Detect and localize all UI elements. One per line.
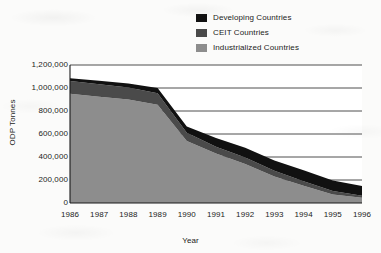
x-tick-label: 1987 (84, 210, 114, 219)
x-axis-tick-labels: 1986198719881989199019911992199319941995… (0, 210, 381, 224)
y-tick-label: 1,000,000 (4, 83, 68, 92)
plot-area: 0200,000400,000600,000800,0001,000,0001,… (0, 0, 381, 253)
x-tick-label: 1994 (289, 210, 319, 219)
y-axis-title: ODP Tonnes (8, 93, 17, 153)
x-tick-label: 1988 (113, 210, 143, 219)
x-axis-title: Year (0, 236, 381, 245)
y-tick-label: 200,000 (4, 175, 68, 184)
x-tick-label: 1989 (143, 210, 173, 219)
x-tick-label: 1995 (318, 210, 348, 219)
x-tick-label: 1991 (201, 210, 231, 219)
chart-container: Developing Countries CEIT Countries Indu… (0, 0, 381, 253)
x-tick-label: 1990 (172, 210, 202, 219)
x-tick-label: 1986 (55, 210, 85, 219)
y-tick-label: 400,000 (4, 152, 68, 161)
x-tick-label: 1996 (347, 210, 377, 219)
y-tick-label: 1,200,000 (4, 60, 68, 69)
y-tick-label: 0 (4, 198, 68, 207)
x-tick-label: 1992 (230, 210, 260, 219)
x-tick-label: 1993 (259, 210, 289, 219)
